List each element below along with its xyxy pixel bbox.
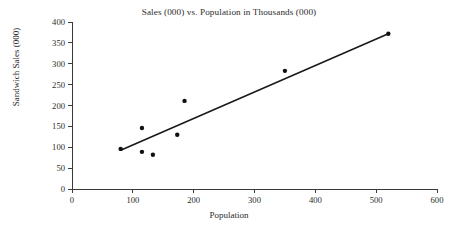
x-tick-label: 0 xyxy=(70,195,74,205)
scatter-chart: Sales (000) vs. Population in Thousands … xyxy=(0,0,458,232)
y-tick-label: 150 xyxy=(52,121,65,131)
x-tick-label: 400 xyxy=(309,195,322,205)
data-point xyxy=(140,150,144,154)
trend-line xyxy=(121,34,389,150)
data-point xyxy=(182,99,186,103)
y-tick-label: 300 xyxy=(52,59,65,69)
x-tick-group: 0100200300400500600 xyxy=(70,189,444,205)
x-tick-label: 200 xyxy=(187,195,200,205)
data-point xyxy=(151,153,155,157)
y-axis: 050100150200250300350400 xyxy=(52,17,72,194)
data-point xyxy=(175,133,179,137)
x-tick-label: 300 xyxy=(248,195,261,205)
y-tick-label: 250 xyxy=(52,80,65,90)
data-point xyxy=(140,126,144,130)
y-tick-label: 400 xyxy=(52,17,65,27)
y-tick-group: 050100150200250300350400 xyxy=(52,17,72,194)
data-point xyxy=(386,31,390,35)
trend-line-group xyxy=(121,34,389,150)
data-point xyxy=(283,69,287,73)
data-point xyxy=(118,147,122,151)
y-tick-label: 50 xyxy=(56,163,65,173)
y-tick-label: 350 xyxy=(52,38,65,48)
x-tick-label: 500 xyxy=(370,195,383,205)
x-tick-label: 100 xyxy=(126,195,139,205)
plot-area: 050100150200250300350400 010020030040050… xyxy=(0,0,458,232)
y-tick-label: 100 xyxy=(52,142,65,152)
x-tick-label: 600 xyxy=(431,195,444,205)
y-tick-label: 0 xyxy=(61,184,65,194)
y-tick-label: 200 xyxy=(52,101,65,111)
x-axis: 0100200300400500600 xyxy=(70,189,444,205)
